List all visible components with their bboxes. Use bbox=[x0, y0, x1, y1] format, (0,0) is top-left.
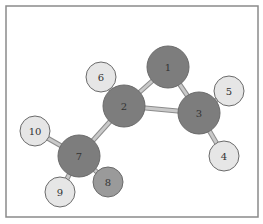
atom-10: 10 bbox=[20, 116, 50, 146]
atom-label: 10 bbox=[29, 126, 42, 137]
atom-7: 7 bbox=[58, 135, 100, 177]
atom-2: 2 bbox=[103, 85, 145, 127]
atom-5: 5 bbox=[214, 76, 244, 106]
atom-label: 8 bbox=[105, 177, 111, 188]
atom-label: 9 bbox=[57, 187, 63, 198]
molecule-diagram: 12345678910 bbox=[0, 0, 263, 224]
atom-label: 2 bbox=[121, 101, 127, 112]
atom-8: 8 bbox=[93, 167, 123, 197]
atom-3: 3 bbox=[178, 92, 220, 134]
atom-1: 1 bbox=[147, 46, 189, 88]
atom-label: 1 bbox=[165, 62, 171, 73]
atom-label: 7 bbox=[76, 151, 82, 162]
atom-4: 4 bbox=[209, 141, 239, 171]
atom-6: 6 bbox=[86, 62, 116, 92]
atom-9: 9 bbox=[45, 177, 75, 207]
atom-label: 3 bbox=[196, 108, 202, 119]
atom-label: 6 bbox=[98, 72, 104, 83]
atom-label: 5 bbox=[226, 86, 232, 97]
atom-label: 4 bbox=[221, 151, 227, 162]
